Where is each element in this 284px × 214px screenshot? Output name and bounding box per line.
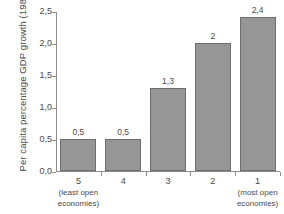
x-category-label: 2 [188,176,238,186]
bar-value-label: 2 [193,31,233,41]
bar-value-label: 1,3 [148,76,188,86]
y-tick-label: 1,0 [30,102,52,112]
y-tick-mark [52,76,56,77]
y-axis-title: Per capita percentage GDP growth (1980–9… [17,0,28,172]
x-category-sublabel: (least open economies) [44,188,112,209]
x-category-label: 5 [53,176,103,186]
x-category-label: 1 [233,176,283,186]
plot-area: 0,00,51,01,52,02,5 0,50,51,322,4 [56,12,280,172]
bar [60,139,96,171]
y-tick-mark [52,12,56,13]
y-tick-mark [52,44,56,45]
bar [105,139,141,171]
y-tick-mark [52,140,56,141]
bar-value-label: 0,5 [58,127,98,137]
x-category-sublabel: (most open economies) [224,188,284,209]
bar [240,17,276,171]
y-tick-label: 0,0 [30,166,52,176]
bar-value-label: 2,4 [238,5,278,15]
y-tick-mark [52,108,56,109]
y-tick-label: 2,0 [30,38,52,48]
x-category-label: 3 [143,176,193,186]
y-axis-line [56,12,57,172]
x-category-label: 4 [98,176,148,186]
bar [195,43,231,171]
bar-value-label: 0,5 [103,127,143,137]
y-tick-label: 2,5 [30,6,52,16]
bar-chart-figure: Per capita percentage GDP growth (1980–9… [0,0,284,214]
y-tick-label: 0,5 [30,134,52,144]
y-tick-label: 1,5 [30,70,52,80]
x-axis-line [56,171,280,172]
y-tick-mark [52,172,56,173]
bar [150,88,186,171]
